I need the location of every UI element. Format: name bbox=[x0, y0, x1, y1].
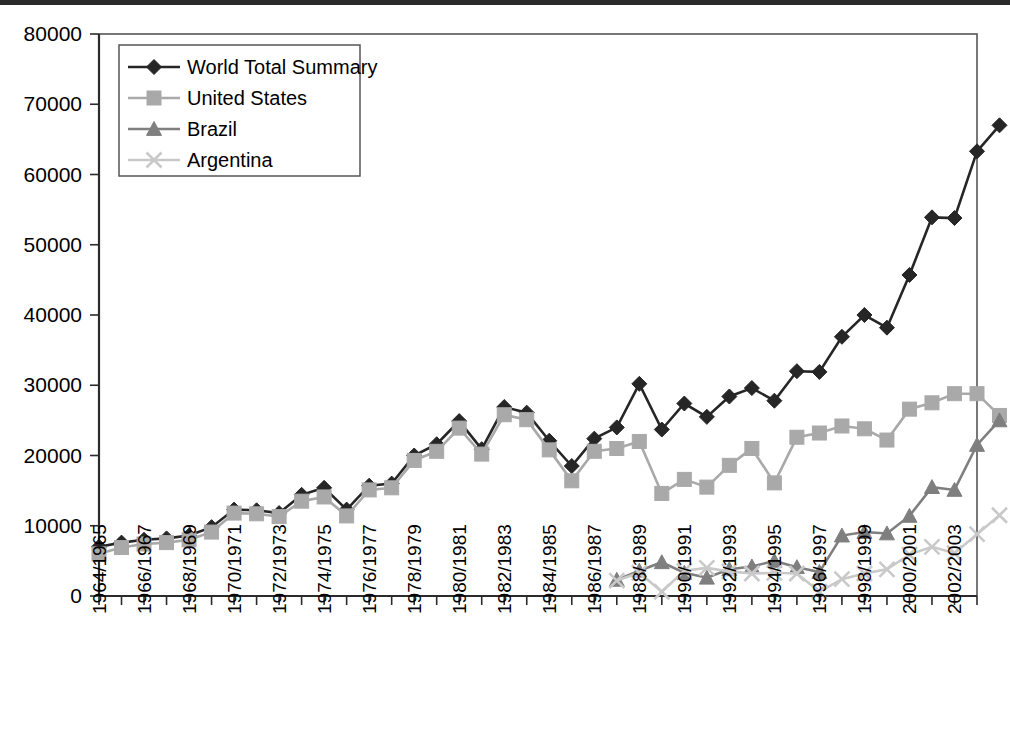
marker-square bbox=[340, 509, 354, 523]
y-tick-label: 20000 bbox=[24, 444, 82, 467]
marker-square bbox=[745, 441, 759, 455]
legend-item-label: World Total Summary bbox=[187, 56, 377, 78]
y-tick-label: 50000 bbox=[24, 233, 82, 256]
x-tick-label: 1998/1999 bbox=[854, 524, 875, 614]
marker-square bbox=[610, 441, 624, 455]
y-tick-label: 60000 bbox=[24, 163, 82, 186]
x-tick-label: 1980/1981 bbox=[449, 524, 470, 614]
x-tick-label: 1978/1979 bbox=[404, 524, 425, 614]
marker-diamond bbox=[744, 381, 759, 396]
y-tick-label: 80000 bbox=[24, 22, 82, 45]
marker-square bbox=[677, 472, 691, 486]
series-line bbox=[99, 125, 1000, 547]
y-tick-label: 10000 bbox=[24, 514, 82, 537]
x-tick-label: 1976/1977 bbox=[359, 524, 380, 614]
marker-square bbox=[970, 387, 984, 401]
marker-diamond bbox=[947, 211, 962, 226]
x-tick-label: 2002/2003 bbox=[944, 524, 965, 614]
marker-diamond bbox=[632, 376, 647, 391]
marker-square bbox=[857, 422, 871, 436]
marker-square bbox=[407, 453, 421, 467]
x-tick-label: 1996/1997 bbox=[809, 524, 830, 614]
marker-cross bbox=[992, 508, 1007, 523]
marker-square bbox=[790, 430, 804, 444]
marker-diamond bbox=[902, 267, 917, 282]
marker-square bbox=[700, 480, 714, 494]
marker-square bbox=[812, 426, 826, 440]
marker-square bbox=[430, 444, 444, 458]
marker-diamond bbox=[924, 210, 939, 225]
marker-square bbox=[205, 525, 219, 539]
marker-square bbox=[880, 433, 894, 447]
marker-diamond bbox=[879, 320, 894, 335]
x-tick-label: 1984/1985 bbox=[539, 524, 560, 614]
marker-square bbox=[542, 443, 556, 457]
marker-square bbox=[767, 476, 781, 490]
x-tick-label: 1972/1973 bbox=[269, 524, 290, 614]
marker-square bbox=[565, 474, 579, 488]
marker-square bbox=[947, 387, 961, 401]
x-tick-label: 1974/1975 bbox=[314, 524, 335, 614]
marker-square bbox=[835, 419, 849, 433]
marker-cross bbox=[924, 539, 939, 554]
marker-square bbox=[520, 413, 534, 427]
x-tick-label: 1968/1969 bbox=[179, 524, 200, 614]
y-axis-tick-group: 0100002000030000400005000060000700008000… bbox=[24, 22, 99, 607]
marker-square bbox=[452, 421, 466, 435]
marker-square bbox=[147, 91, 161, 105]
y-tick-label: 40000 bbox=[24, 303, 82, 326]
x-tick-label: 1982/1983 bbox=[494, 524, 515, 614]
x-tick-label: 1988/1989 bbox=[629, 524, 650, 614]
marker-square bbox=[227, 506, 241, 520]
x-tick-label: 1994/1995 bbox=[764, 524, 785, 614]
marker-diamond bbox=[609, 420, 624, 435]
marker-square bbox=[250, 507, 264, 521]
marker-diamond bbox=[812, 364, 827, 379]
legend-item-label: Brazil bbox=[187, 118, 237, 140]
x-tick-label: 1966/1967 bbox=[134, 524, 155, 614]
x-tick-label: 2000/2001 bbox=[899, 524, 920, 614]
marker-square bbox=[655, 486, 669, 500]
x-tick-label: 1990/1991 bbox=[674, 524, 695, 614]
marker-triangle bbox=[654, 555, 669, 569]
scan-artifact-bar bbox=[0, 0, 1010, 5]
marker-square bbox=[272, 510, 286, 524]
legend-item-label: Argentina bbox=[187, 149, 273, 171]
y-tick-label: 70000 bbox=[24, 92, 82, 115]
marker-square bbox=[295, 494, 309, 508]
marker-square bbox=[925, 396, 939, 410]
marker-square bbox=[497, 408, 511, 422]
marker-square bbox=[115, 541, 129, 555]
marker-square bbox=[587, 444, 601, 458]
chart-legend: World Total SummaryUnited StatesBrazilAr… bbox=[119, 45, 377, 176]
marker-square bbox=[722, 458, 736, 472]
marker-square bbox=[475, 447, 489, 461]
chart-figure: 0100002000030000400005000060000700008000… bbox=[0, 0, 1010, 743]
marker-square bbox=[160, 536, 174, 550]
x-tick-label: 1970/1971 bbox=[224, 524, 245, 614]
marker-square bbox=[362, 483, 376, 497]
x-tick-label: 1992/1993 bbox=[719, 524, 740, 614]
series-world-total-summary bbox=[92, 118, 1008, 555]
y-tick-label: 30000 bbox=[24, 373, 82, 396]
line-chart: 0100002000030000400005000060000700008000… bbox=[0, 0, 1010, 743]
marker-square bbox=[902, 402, 916, 416]
x-tick-label: 1964/1965 bbox=[89, 524, 110, 614]
y-tick-label: 0 bbox=[70, 584, 82, 607]
marker-square bbox=[385, 481, 399, 495]
x-tick-label: 1986/1987 bbox=[584, 524, 605, 614]
marker-square bbox=[632, 434, 646, 448]
legend-item-label: United States bbox=[187, 87, 307, 109]
marker-square bbox=[317, 490, 331, 504]
